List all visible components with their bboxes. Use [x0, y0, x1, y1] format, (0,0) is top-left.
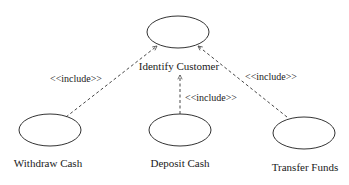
stereotype-include-withdraw: <<include>>	[50, 73, 102, 84]
label-withdraw-cash: Withdraw Cash	[14, 157, 82, 169]
stereotype-include-transfer: <<include>>	[245, 71, 297, 82]
use-case-identify-customer[interactable]	[147, 16, 209, 48]
label-identify-customer: Identify Customer	[139, 60, 219, 72]
use-case-withdraw-cash[interactable]	[19, 114, 81, 146]
use-case-deposit-cash[interactable]	[149, 114, 211, 146]
stereotype-include-deposit: <<include>>	[185, 92, 237, 103]
label-deposit-cash: Deposit Cash	[151, 157, 210, 169]
label-transfer-funds: Transfer Funds	[272, 161, 339, 173]
use-case-transfer-funds[interactable]	[273, 117, 335, 149]
